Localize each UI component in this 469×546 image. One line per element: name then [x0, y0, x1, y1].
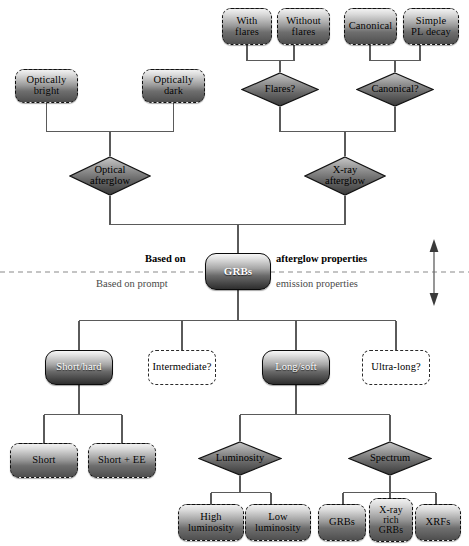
node-canonical[interactable]: Canonical: [344, 8, 397, 45]
node-label: Canonical?: [356, 72, 434, 107]
node-label: Without flares: [284, 16, 323, 37]
divider-label-above-left: Based on: [145, 253, 186, 264]
node-optically-bright[interactable]: Optically bright: [15, 69, 78, 103]
node-intermediate[interactable]: Intermediate?: [148, 350, 216, 385]
decision-luminosity[interactable]: Luminosity: [198, 441, 282, 476]
node-long-soft[interactable]: Long/soft: [262, 350, 330, 385]
double-arrow-vertical-icon: [430, 239, 439, 306]
decision-optical-afterglow[interactable]: Optical afterglow: [69, 156, 151, 196]
node-label: Spectrum: [348, 441, 432, 476]
node-without-flares[interactable]: Without flares: [277, 8, 330, 45]
node-label: XRFs: [424, 517, 453, 528]
divider-label-above-right: afterglow properties: [276, 253, 367, 264]
node-label: Low luminosity: [253, 512, 303, 533]
node-label: Ultra-long?: [369, 362, 423, 373]
node-label: Flares?: [241, 72, 319, 107]
node-ultra-long[interactable]: Ultra-long?: [362, 350, 430, 385]
decision-spectrum[interactable]: Spectrum: [348, 441, 432, 476]
node-label: Short + EE: [96, 455, 148, 466]
decision-flares[interactable]: Flares?: [241, 72, 319, 107]
node-simple-pl-decay[interactable]: Simple PL decay: [403, 8, 459, 45]
node-short-plus-ee[interactable]: Short + EE: [88, 443, 156, 478]
node-label: Simple PL decay: [409, 16, 453, 37]
node-label: X-ray rich GRBs: [377, 505, 405, 535]
node-high-luminosity[interactable]: High luminosity: [178, 504, 244, 541]
node-low-luminosity[interactable]: Low luminosity: [245, 504, 311, 541]
node-label: Short: [30, 455, 57, 466]
grb-classification-flowchart: With flares Without flares Canonical Sim…: [0, 0, 469, 546]
node-label: Optically bright: [25, 75, 69, 96]
node-label: High luminosity: [186, 512, 236, 533]
node-xrfs[interactable]: XRFs: [415, 504, 461, 541]
decision-canonical[interactable]: Canonical?: [356, 72, 434, 107]
node-label: Intermediate?: [150, 362, 213, 373]
node-label: GRBs: [327, 517, 357, 528]
node-label: With flares: [233, 16, 261, 37]
node-label: X-ray afterglow: [304, 156, 386, 196]
divider-label-below-left: Based on prompt: [96, 278, 168, 289]
node-short[interactable]: Short: [10, 443, 78, 478]
node-optically-dark[interactable]: Optically dark: [142, 69, 205, 103]
node-label: Optical afterglow: [69, 156, 151, 196]
node-with-flares[interactable]: With flares: [222, 8, 272, 45]
node-label: Short/hard: [54, 362, 103, 373]
decision-xray-afterglow[interactable]: X-ray afterglow: [304, 156, 386, 196]
node-label: Optically dark: [152, 75, 196, 96]
node-grbs-leaf[interactable]: GRBs: [318, 504, 366, 541]
node-short-hard[interactable]: Short/hard: [45, 350, 113, 385]
node-xray-rich-grbs[interactable]: X-ray rich GRBs: [369, 498, 413, 542]
node-label: Canonical: [347, 21, 394, 32]
node-grbs-root[interactable]: GRBs: [205, 253, 271, 290]
node-label: Luminosity: [198, 441, 282, 476]
node-label: GRBs: [222, 266, 255, 277]
node-label: Long/soft: [273, 362, 319, 373]
divider-label-below-right: emission properties: [276, 278, 358, 289]
